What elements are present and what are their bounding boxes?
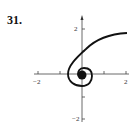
spiral-center (78, 71, 87, 80)
y-tick-label-2: 2 (74, 25, 78, 33)
x-tick-label-neg2: −2 (33, 78, 41, 86)
y-tick-label-neg2: −2 (72, 115, 80, 123)
polar-plot: −2 2 2 −2 (0, 0, 131, 129)
spiral-curve (68, 33, 127, 86)
y-axis-arrow-icon (81, 15, 84, 20)
x-tick-label-2: 2 (124, 78, 128, 86)
